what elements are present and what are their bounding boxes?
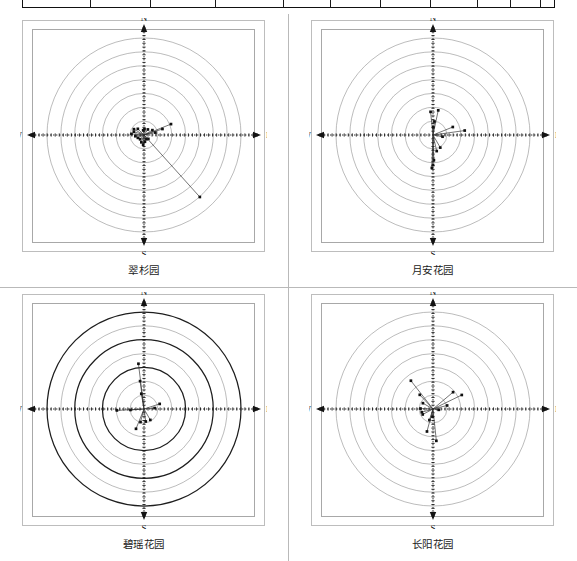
compass-label-south: S — [431, 523, 436, 529]
data-point[interactable] — [446, 404, 449, 407]
panel-caption: 翠杉园 — [20, 262, 267, 277]
data-point[interactable] — [140, 141, 143, 144]
north-arrow — [430, 298, 436, 306]
data-point[interactable] — [199, 195, 202, 198]
compass-label-west: W — [309, 130, 312, 140]
data-point[interactable] — [433, 120, 436, 123]
data-point[interactable] — [438, 408, 441, 411]
data-series — [410, 379, 464, 442]
data-point[interactable] — [436, 149, 439, 152]
compass-label-north: N — [430, 18, 437, 23]
compass-label-west: W — [309, 404, 312, 414]
polar-panel-2[interactable]: NSEW月安花园 — [289, 14, 577, 288]
data-point[interactable] — [464, 129, 467, 132]
data-vector — [433, 135, 440, 148]
data-point[interactable] — [154, 131, 157, 134]
east-arrow — [253, 406, 261, 412]
compass-label-north: N — [141, 292, 148, 297]
compass-label-south: S — [142, 249, 147, 255]
compass-label-north: N — [141, 18, 148, 23]
polar-chart-svg: NSEW — [309, 18, 556, 255]
data-point[interactable] — [410, 379, 413, 382]
plot-box: NSEW长阳花园 — [309, 292, 556, 557]
polar-chart-svg: NSEW — [309, 292, 556, 529]
compass-label-east: E — [555, 130, 556, 140]
table-column-divider — [330, 0, 331, 8]
data-point[interactable] — [431, 415, 434, 418]
data-point[interactable] — [137, 362, 140, 365]
east-arrow — [253, 132, 261, 138]
compass-label-south: S — [431, 249, 436, 255]
data-series — [130, 123, 201, 199]
table-column-divider — [477, 0, 478, 8]
west-arrow — [316, 406, 324, 412]
table-column-divider — [150, 0, 151, 8]
data-point[interactable] — [461, 393, 464, 396]
data-point[interactable] — [142, 143, 145, 146]
data-point[interactable] — [116, 409, 119, 412]
data-point[interactable] — [419, 407, 422, 410]
table-column-divider — [215, 0, 216, 8]
east-arrow — [542, 132, 550, 138]
data-point[interactable] — [135, 427, 138, 430]
data-point[interactable] — [133, 128, 136, 131]
data-point[interactable] — [435, 439, 438, 442]
south-arrow — [141, 238, 147, 246]
data-point[interactable] — [161, 127, 164, 130]
data-vector — [144, 135, 200, 197]
polar-panel-3[interactable]: NSEW碧瑶花园 — [0, 288, 289, 561]
table-column-divider — [510, 0, 511, 8]
data-point[interactable] — [159, 402, 162, 405]
data-point[interactable] — [133, 130, 136, 133]
data-point[interactable] — [426, 430, 429, 433]
data-point[interactable] — [144, 140, 147, 143]
data-point[interactable] — [130, 132, 133, 135]
south-arrow — [430, 238, 436, 246]
data-vector — [136, 409, 144, 429]
data-point[interactable] — [452, 125, 455, 128]
data-point[interactable] — [142, 129, 145, 132]
table-column-divider — [90, 0, 91, 8]
polar-panel-1[interactable]: NSEW翠杉园 — [0, 14, 289, 288]
data-point[interactable] — [139, 421, 142, 424]
data-point[interactable] — [145, 420, 148, 423]
table-bottom-edge — [22, 0, 555, 8]
compass-label-north: N — [430, 292, 437, 297]
north-arrow — [141, 24, 147, 32]
compass-label-west: W — [20, 130, 23, 140]
west-arrow — [27, 132, 35, 138]
table-column-divider — [283, 0, 284, 8]
north-arrow — [141, 298, 147, 306]
data-point[interactable] — [139, 138, 142, 141]
data-point[interactable] — [134, 135, 137, 138]
compass-label-south: S — [142, 523, 147, 529]
polar-panel-4[interactable]: NSEW长阳花园 — [289, 288, 577, 561]
data-point[interactable] — [432, 126, 435, 129]
polar-chart-svg: NSEW — [20, 292, 267, 529]
data-point[interactable] — [429, 110, 432, 113]
west-arrow — [316, 132, 324, 138]
plot-box: NSEW月安花园 — [309, 18, 556, 283]
data-point[interactable] — [422, 413, 425, 416]
compass-label-east: E — [266, 404, 267, 414]
table-column-divider — [540, 0, 541, 8]
data-point[interactable] — [149, 418, 152, 421]
data-point[interactable] — [441, 135, 444, 138]
data-point[interactable] — [170, 123, 173, 126]
table-column-divider — [380, 0, 381, 8]
data-point[interactable] — [419, 393, 422, 396]
data-point[interactable] — [452, 391, 455, 394]
data-point[interactable] — [422, 402, 425, 405]
data-point[interactable] — [439, 146, 442, 149]
south-arrow — [141, 512, 147, 520]
data-point[interactable] — [140, 392, 143, 395]
data-point[interactable] — [154, 406, 157, 409]
data-point[interactable] — [139, 380, 142, 383]
data-point[interactable] — [147, 128, 150, 131]
plot-box: NSEW碧瑶花园 — [20, 292, 267, 557]
data-point[interactable] — [437, 109, 440, 112]
data-point[interactable] — [151, 129, 154, 132]
data-point[interactable] — [137, 127, 140, 130]
data-point[interactable] — [431, 166, 434, 169]
compass-label-east: E — [266, 130, 267, 140]
